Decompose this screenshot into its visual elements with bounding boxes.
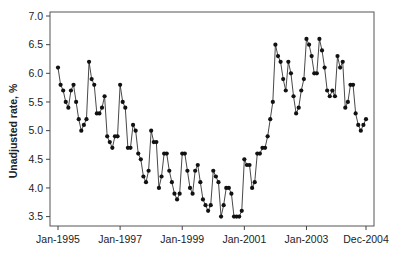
data-point [141, 174, 145, 178]
data-point [175, 197, 179, 201]
y-tick-label: 5.0 [28, 124, 43, 136]
data-point [361, 123, 365, 127]
data-point [87, 60, 91, 64]
data-point [268, 117, 272, 121]
x-tick-label: Jan-1995 [36, 233, 80, 245]
x-tick-label: Jan-1997 [98, 233, 142, 245]
data-point [307, 43, 311, 47]
x-tick-label: Jan-2003 [285, 233, 329, 245]
data-point [128, 146, 132, 150]
data-point [346, 100, 350, 104]
data-point [121, 100, 125, 104]
data-point [154, 140, 158, 144]
data-point [343, 106, 347, 110]
data-point [170, 180, 174, 184]
data-point [90, 77, 94, 81]
data-point [198, 180, 202, 184]
data-point [304, 37, 308, 41]
data-point [172, 192, 176, 196]
data-point [74, 100, 78, 104]
x-axis: Jan-1995Jan-1997Jan-1999Jan-2001Jan-2003… [36, 226, 389, 245]
data-point [69, 88, 73, 92]
data-point [294, 111, 298, 115]
data-point [278, 60, 282, 64]
data-point [209, 203, 213, 207]
data-point [317, 37, 321, 41]
data-point [354, 111, 358, 115]
data-point [325, 88, 329, 92]
data-point [102, 94, 106, 98]
data-point [64, 100, 68, 104]
x-tick-label: Dec-2004 [343, 233, 389, 245]
data-point [84, 117, 88, 121]
data-point [188, 186, 192, 190]
data-point [56, 65, 60, 69]
data-point [266, 134, 270, 138]
data-point [211, 169, 215, 173]
data-point [214, 174, 218, 178]
data-point [131, 123, 135, 127]
data-point [297, 106, 301, 110]
y-tick-label: 7.0 [28, 10, 43, 22]
data-point [289, 71, 293, 75]
y-tick-label: 5.5 [28, 96, 43, 108]
data-point [185, 169, 189, 173]
data-point [250, 186, 254, 190]
data-point [136, 151, 140, 155]
y-axis-title: Unadjusted rate, % [7, 83, 19, 178]
data-point [190, 192, 194, 196]
data-point [310, 54, 314, 58]
data-point [338, 65, 342, 69]
data-point [291, 94, 295, 98]
data-point [92, 83, 96, 87]
data-point [356, 123, 360, 127]
data-point [284, 88, 288, 92]
y-tick-label: 4.5 [28, 153, 43, 165]
data-point [159, 174, 163, 178]
data-point [100, 106, 104, 110]
data-point [79, 129, 83, 133]
data-point [359, 129, 363, 133]
data-point [134, 129, 138, 133]
data-point [149, 129, 153, 133]
y-tick-label: 6.5 [28, 38, 43, 50]
data-point [144, 180, 148, 184]
data-line [58, 39, 366, 217]
data-point [271, 100, 275, 104]
data-point [286, 60, 290, 64]
data-point [222, 203, 226, 207]
data-point [105, 134, 109, 138]
data-point [315, 71, 319, 75]
data-point [364, 117, 368, 121]
data-point [328, 94, 332, 98]
data-point [320, 48, 324, 52]
data-point [178, 192, 182, 196]
data-point [216, 180, 220, 184]
data-point [333, 94, 337, 98]
data-point [247, 163, 251, 167]
data-point [335, 54, 339, 58]
data-point [157, 186, 161, 190]
data-point [242, 157, 246, 161]
data-point [183, 151, 187, 155]
data-point [71, 83, 75, 87]
data-point [240, 209, 244, 213]
data-point [139, 157, 143, 161]
data-point [263, 146, 267, 150]
data-point [201, 197, 205, 201]
data-point [253, 180, 257, 184]
data-point [61, 88, 65, 92]
y-axis: 3.54.04.55.05.56.06.57.0 [28, 10, 50, 223]
data-point [258, 151, 262, 155]
line-chart: 3.54.04.55.05.56.06.57.0 Jan-1995Jan-199… [0, 0, 395, 254]
data-point [196, 163, 200, 167]
data-point [58, 83, 62, 87]
data-point [229, 192, 233, 196]
data-point [237, 215, 241, 219]
data-point [123, 106, 127, 110]
data-point [115, 134, 119, 138]
data-point [146, 169, 150, 173]
data-point [219, 215, 223, 219]
data-point [341, 60, 345, 64]
data-point [77, 117, 81, 121]
